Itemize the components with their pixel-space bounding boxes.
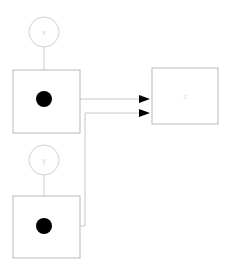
input-node-y-label: y xyxy=(42,156,46,165)
port-dot-top[interactable] xyxy=(36,91,52,107)
arrow-into-output-upper xyxy=(139,95,150,103)
block-output-label: s xyxy=(183,92,187,101)
port-dot-bottom[interactable] xyxy=(36,218,52,234)
arrow-into-output-lower xyxy=(139,109,150,117)
diagram-canvas: s x y xyxy=(0,0,227,271)
diagram-svg: s x y xyxy=(0,0,227,271)
input-node-x-label: x xyxy=(42,28,46,37)
